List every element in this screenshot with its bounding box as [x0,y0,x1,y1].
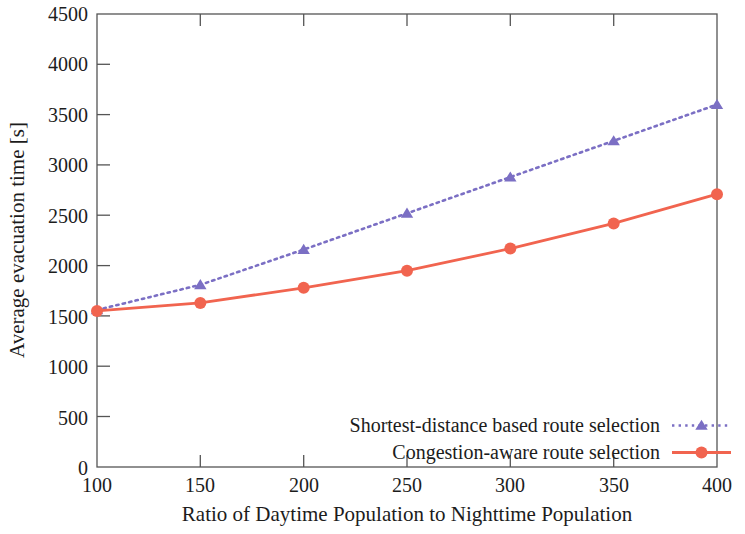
x-tick-label: 250 [392,474,422,496]
y-tick-label: 2500 [48,205,88,227]
x-tick-label: 200 [289,474,319,496]
data-point-marker [194,279,206,289]
data-point-marker [711,99,723,109]
legend-label-shortest-distance: Shortest-distance based route selection [350,414,660,436]
series-line [97,105,717,310]
x-tick-label: 350 [599,474,629,496]
legend-swatch-congestion-aware [672,447,731,459]
y-axis-tick-labels: 4500 4000 3500 3000 2500 2000 1500 1000 … [48,3,88,479]
x-tick-label: 300 [495,474,525,496]
plot-frame [97,14,717,467]
y-tick-label: 3000 [48,154,88,176]
data-point-marker [194,297,206,309]
data-series [91,188,723,317]
x-axis-tick-labels: 100 150 200 250 300 350 400 [82,474,732,496]
y-axis-tick-marks [97,64,110,416]
chart-legend: Shortest-distance based route selection … [350,414,731,464]
data-point-marker [504,243,516,255]
y-tick-label: 2000 [48,255,88,277]
y-tick-label: 1000 [48,356,88,378]
chart-figure: 4500 4000 3500 3000 2500 2000 1500 1000 … [0,0,745,534]
x-axis-title: Ratio of Daytime Population to Nighttime… [182,502,633,526]
legend-label-congestion-aware: Congestion-aware route selection [392,441,660,464]
data-point-marker [608,217,620,229]
x-axis-tick-marks [200,14,613,467]
x-tick-label: 100 [82,474,112,496]
y-tick-label: 3500 [48,104,88,126]
line-chart: 4500 4000 3500 3000 2500 2000 1500 1000 … [0,0,745,534]
y-tick-label: 1500 [48,306,88,328]
data-point-marker [711,188,723,200]
data-point-marker [696,447,708,459]
x-tick-label: 150 [185,474,215,496]
data-series [91,99,723,314]
data-series-layer [91,99,723,317]
x-tick-label: 400 [702,474,732,496]
y-tick-label: 4000 [48,53,88,75]
y-axis-title: Average evacuation time [s] [5,122,29,358]
data-point-marker [91,305,103,317]
y-tick-label: 500 [58,407,88,429]
y-tick-label: 4500 [48,3,88,25]
legend-swatch-shortest-distance [672,420,731,430]
data-point-marker [298,282,310,294]
data-point-marker [401,265,413,277]
